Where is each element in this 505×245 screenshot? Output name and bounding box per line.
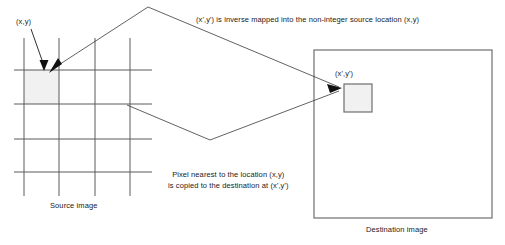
source-highlighted-cell (24, 70, 59, 104)
destination-pixel-square (344, 84, 372, 112)
destination-image-caption: Destination image (366, 225, 428, 236)
xy-label-arrow-shaft (31, 29, 43, 63)
xy-label-arrow-head (40, 60, 49, 71)
nearest-pixel-note: Pixel nearest to the location (x,y) is c… (168, 170, 289, 192)
destination-point-label: (x',y') (335, 69, 353, 80)
source-image-caption: Source image (50, 201, 97, 212)
diagram-canvas: (x,y) (x',y') is inverse mapped into the… (0, 0, 505, 245)
nearest-pixel-note-line-1: Pixel nearest to the location (x,y) (168, 170, 289, 181)
source-point-label: (x,y) (16, 17, 31, 28)
lower-connector-path (127, 91, 339, 140)
inverse-mapping-note: (x',y') is inverse mapped into the non-i… (196, 15, 419, 26)
nearest-pixel-note-line-2: is copied to the destination at (x',y') (168, 181, 289, 192)
